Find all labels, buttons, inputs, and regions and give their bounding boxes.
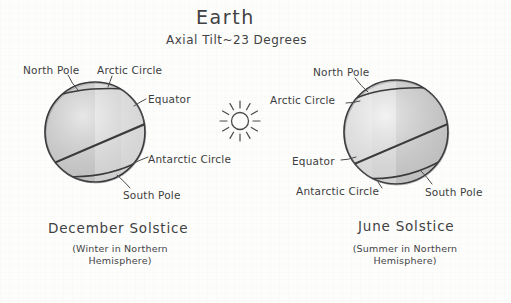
leader-north-pole-left (68, 75, 78, 90)
leader-equator-left (134, 99, 146, 106)
label-equator-left: Equator (148, 93, 191, 105)
leader-lines-left (68, 75, 148, 188)
leader-north-pole-right (355, 78, 368, 92)
globe-june-solstice (340, 76, 455, 192)
page-title: Earth (196, 6, 255, 28)
caption-december-solstice: December Solstice (48, 220, 188, 236)
caption-june-solstice: June Solstice (358, 218, 454, 234)
label-antarctic-circle-left: Antarctic Circle (148, 153, 231, 165)
leader-lines-right (341, 78, 432, 188)
label-north-pole-left: North Pole (23, 64, 79, 76)
caption-december-solstice-sub: (Winter in Northern Hemisphere) (50, 243, 190, 267)
label-antarctic-circle-right: Antarctic Circle (296, 185, 379, 197)
leader-south-pole-right (421, 171, 432, 184)
leader-antarctic-circle-left (132, 157, 148, 164)
diagram-canvas: Earth Axial Tilt~23 Degrees North Pole A… (0, 0, 511, 303)
leader-equator-right (341, 157, 356, 160)
label-north-pole-right: North Pole (313, 66, 369, 78)
leader-arctic-circle-left (108, 76, 112, 87)
caption-june-solstice-sub: (Summer in Northern Hemisphere) (330, 243, 480, 267)
leader-arctic-circle-right (346, 101, 360, 103)
label-south-pole-right: South Pole (425, 186, 483, 198)
globe-december-solstice (40, 78, 152, 190)
label-south-pole-left: South Pole (123, 189, 181, 201)
label-equator-right: Equator (292, 155, 335, 167)
leader-south-pole-left (117, 175, 130, 188)
page-subtitle: Axial Tilt~23 Degrees (166, 33, 307, 47)
label-arctic-circle-right: Arctic Circle (270, 94, 335, 106)
sun-icon (220, 101, 260, 141)
label-arctic-circle-left: Arctic Circle (97, 64, 162, 76)
